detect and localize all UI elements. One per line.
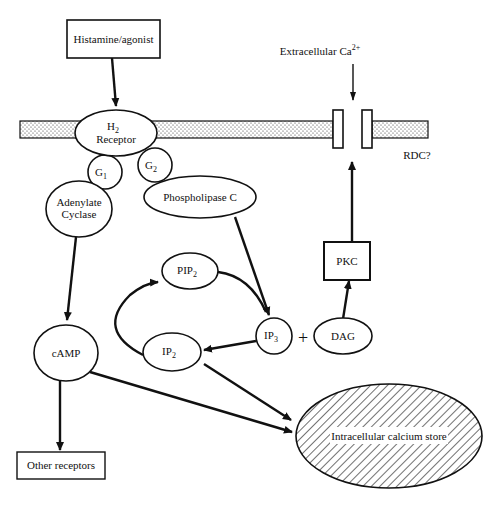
ip2-label: IP (162, 345, 172, 357)
signaling-pathway-diagram: Histamine/agonist G1 G2 H2 Receptor Aden… (0, 0, 497, 505)
edge-adenylate-to-camp (67, 237, 76, 320)
pip2-label: PIP (177, 264, 193, 276)
ip3: IP3 (256, 318, 292, 354)
edge-ip2-to-calcium-store (204, 364, 291, 420)
rdc-label: RDC? (403, 149, 431, 161)
intracellular-calcium-store: Intracellular calcium store (296, 384, 482, 488)
rdc-channel (333, 110, 372, 148)
g1-subscript: 1 (103, 172, 107, 181)
ip3-subscript: 3 (274, 335, 278, 344)
h2-label: H (107, 120, 115, 132)
edge-ip3-to-ip2 (204, 341, 256, 350)
edge-pip2-to-ip3 (218, 272, 266, 312)
calcium-store-label: Intracellular calcium store (331, 430, 447, 442)
phospholipase-c-label: Phospholipase C (163, 191, 237, 203)
cyclase-label: Cyclase (62, 208, 97, 220)
dag: DAG (314, 318, 372, 354)
pip2: PIP2 (162, 253, 218, 289)
histamine-label: Histamine/agonist (73, 33, 153, 45)
extracellular-ca-label: Extracellular Ca2+ (280, 43, 361, 57)
camp-label: cAMP (52, 347, 81, 359)
dag-label: DAG (331, 330, 355, 342)
edge-plc-to-ip3 (235, 217, 269, 315)
adenylate-label: Adenylate (56, 196, 101, 208)
edge-histamine-to-h2 (112, 58, 116, 106)
adenylate-cyclase: Adenylate Cyclase (46, 181, 112, 237)
extracellular-ca-superscript: 2+ (352, 43, 361, 52)
pkc-box: PKC (324, 242, 370, 280)
g1-label: G (95, 166, 103, 178)
pkc-label: PKC (336, 255, 357, 267)
ip2: IP2 (143, 333, 201, 371)
receptor-label: Receptor (96, 133, 136, 145)
other-receptors-box: Other receptors (17, 452, 105, 479)
g2-protein: G2 (138, 148, 172, 182)
ip3-label: IP (264, 329, 274, 341)
camp: cAMP (34, 325, 98, 381)
g2-subscript: 2 (153, 165, 157, 174)
ip2-subscript: 2 (172, 351, 176, 360)
g2-label: G (145, 159, 153, 171)
extracellular-ca-main: Extracellular Ca (280, 45, 352, 57)
phospholipase-c: Phospholipase C (144, 176, 256, 218)
other-receptors-label: Other receptors (27, 459, 95, 471)
histamine-agonist-box: Histamine/agonist (67, 20, 160, 58)
h2-receptor: H2 Receptor (75, 110, 157, 156)
plus-sign: + (298, 328, 308, 348)
edge-dag-to-pkc (343, 281, 349, 319)
pip2-subscript: 2 (193, 270, 197, 279)
